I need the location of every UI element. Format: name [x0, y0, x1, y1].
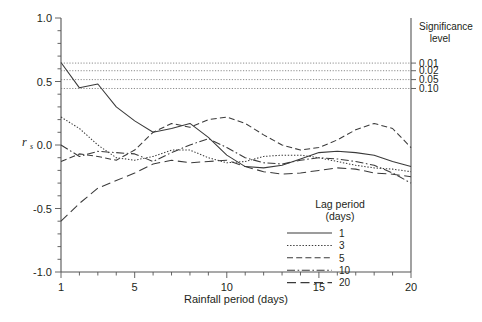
chart-figure: -1.0-0.50.00.51.0 15101520 r s Rainfall …: [0, 0, 482, 322]
legend-title-line1: Lag period: [315, 198, 365, 210]
y-axis-title-sub: s: [30, 142, 33, 151]
chart-background: [0, 0, 482, 322]
y-tick-label: -1.0: [33, 266, 52, 278]
rainfall-correlation-chart: -1.0-0.50.00.51.0 15101520 r s Rainfall …: [0, 0, 482, 322]
significance-title-line1: Significance: [419, 21, 473, 32]
x-tick-label: 10: [221, 281, 233, 293]
legend-title-line2: (days): [325, 210, 354, 222]
significance-title-line2: level: [430, 33, 451, 44]
x-axis-title: Rainfall period (days): [184, 293, 288, 305]
y-axis-title-main: r: [22, 135, 27, 149]
x-tick-label: 1: [58, 281, 64, 293]
legend-label-lag-5: 5: [339, 253, 345, 264]
x-tick-label: 5: [132, 281, 138, 293]
x-tick-label: 20: [405, 281, 417, 293]
y-tick-label: -0.5: [33, 203, 52, 215]
y-tick-label: 0.0: [37, 139, 52, 151]
legend-label-lag-3: 3: [339, 240, 345, 251]
y-tick-label: 1.0: [37, 12, 52, 24]
y-tick-label: 0.5: [37, 76, 52, 88]
legend-label-lag-20: 20: [339, 277, 351, 288]
legend-label-lag-1: 1: [339, 228, 345, 239]
legend-label-lag-10: 10: [339, 265, 351, 276]
significance-level-labels: 0.010.020.050.10: [419, 58, 439, 94]
significance-label-0-10: 0.10: [419, 83, 439, 94]
